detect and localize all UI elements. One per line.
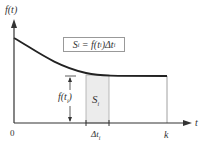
width-label-main: Δt [91,129,99,139]
width-label: Δti [91,130,100,141]
formula-rest: )Δt [102,39,114,50]
riemann-strip-diagram: f(t) t 0 k Si = f(ti)Δti f(ti) Si Δti [0,0,210,145]
height-arrow-up-icon [68,77,72,82]
k-label: k [164,130,168,140]
formula-dt-sub: i [114,42,116,48]
x-axis-arrow-icon [183,120,192,126]
strip-label: Si [92,94,99,107]
height-arrow-down-icon [68,117,72,122]
origin-label: 0 [10,129,15,138]
y-axis-label: f(t) [5,5,17,15]
y-axis-arrow-icon [11,19,17,28]
height-label-main: f(t [58,91,67,102]
diagram-graphics [0,0,210,145]
formula-box: Si = f(ti)Δti [63,37,125,52]
height-label-close: ) [69,91,72,102]
strip-label-sub: i [98,101,100,107]
width-label-sub: i [99,135,101,141]
formula-eq: = f(t [79,39,100,50]
x-axis-label: t [195,118,198,128]
height-label: f(ti) [58,92,72,104]
